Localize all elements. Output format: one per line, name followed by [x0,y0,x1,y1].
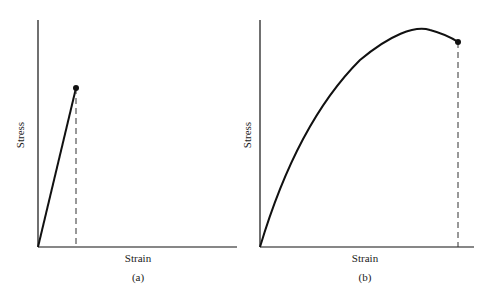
fracture-point [73,85,79,91]
panel-a: Stress Strain (a) [14,20,237,284]
x-axis-label: Strain [125,252,152,264]
stress-strain-line [38,88,76,247]
y-axis-label: Stress [241,122,253,148]
panel-b: Stress Strain (b) [241,20,474,284]
x-axis-label: Strain [352,252,379,264]
figure-canvas: Stress Strain (a) Stress Strain (b) [0,0,478,298]
fracture-point [455,39,461,45]
panel-caption: (a) [132,271,145,284]
stress-strain-curve [260,29,458,247]
y-axis-label: Stress [14,122,26,148]
panel-caption: (b) [359,271,372,284]
